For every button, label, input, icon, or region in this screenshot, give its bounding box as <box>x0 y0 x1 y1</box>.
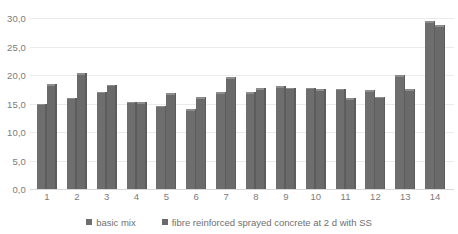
bar-group <box>241 18 271 189</box>
legend-label: fibre reinforced sprayed concrete at 2 d… <box>172 217 372 228</box>
bar <box>97 92 107 189</box>
legend-item[interactable]: basic mix <box>86 217 136 228</box>
y-axis-tick: 15,0 <box>7 98 26 109</box>
bar-group <box>390 18 420 189</box>
bar-chart: 0,05,010,015,020,025,030,0 1234567891011… <box>0 0 458 234</box>
bar-group <box>211 18 241 189</box>
bar-group <box>151 18 181 189</box>
bar <box>435 25 445 189</box>
x-axis-tick: 10 <box>301 191 331 207</box>
bar-group <box>301 18 331 189</box>
y-axis-tick: 5,0 <box>12 155 26 166</box>
x-axis-tick: 3 <box>92 191 122 207</box>
bar <box>316 89 326 189</box>
bar <box>405 89 415 189</box>
bar <box>306 88 316 189</box>
bar-group <box>181 18 211 189</box>
y-axis-labels: 0,05,010,015,020,025,030,0 <box>0 18 28 189</box>
x-axis-tick: 9 <box>271 191 301 207</box>
bar-group <box>420 18 450 189</box>
bar-group <box>122 18 152 189</box>
x-axis-tick: 2 <box>62 191 92 207</box>
bar <box>127 102 137 189</box>
y-axis-tick: 0,0 <box>12 184 26 195</box>
bar <box>226 77 236 189</box>
bar <box>196 97 206 189</box>
x-axis-tick: 1 <box>32 191 62 207</box>
x-axis-tick: 8 <box>241 191 271 207</box>
y-axis-tick: 10,0 <box>7 127 26 138</box>
bar <box>375 97 385 189</box>
bar <box>216 92 226 189</box>
bar <box>166 93 176 189</box>
x-axis-tick: 13 <box>390 191 420 207</box>
x-axis-tick: 7 <box>211 191 241 207</box>
bar <box>77 73 87 189</box>
y-axis-tick: 25,0 <box>7 41 26 52</box>
bar <box>156 106 166 189</box>
bar-group <box>62 18 92 189</box>
bar-group <box>32 18 62 189</box>
y-axis-tick: 30,0 <box>7 13 26 24</box>
y-axis-tick: 20,0 <box>7 70 26 81</box>
bar <box>37 104 47 190</box>
chart-legend: basic mixfibre reinforced sprayed concre… <box>0 213 458 231</box>
plot-area <box>30 18 454 189</box>
legend-item[interactable]: fibre reinforced sprayed concrete at 2 d… <box>162 217 372 228</box>
bar <box>276 86 286 189</box>
legend-swatch-icon <box>162 219 168 225</box>
bar <box>336 89 346 189</box>
bar <box>246 92 256 189</box>
x-axis-labels: 1234567891011121314 <box>30 191 454 207</box>
gridline <box>30 189 454 190</box>
x-axis-tick: 4 <box>122 191 152 207</box>
bar-group <box>92 18 122 189</box>
bar <box>186 109 196 189</box>
bar <box>346 98 356 189</box>
x-axis-tick: 11 <box>331 191 361 207</box>
legend-label: basic mix <box>96 217 136 228</box>
bar-group <box>331 18 361 189</box>
bar <box>47 84 57 189</box>
bar <box>286 88 296 189</box>
bar <box>365 90 375 189</box>
legend-swatch-icon <box>86 219 92 225</box>
bar <box>137 102 147 189</box>
x-axis-tick: 5 <box>151 191 181 207</box>
bar-group <box>271 18 301 189</box>
bar <box>256 88 266 189</box>
bar <box>425 21 435 189</box>
x-axis-tick: 14 <box>420 191 450 207</box>
x-axis-tick: 6 <box>181 191 211 207</box>
bar <box>107 85 117 189</box>
bar-group <box>360 18 390 189</box>
bar-groups <box>30 18 454 189</box>
bar <box>395 75 405 189</box>
x-axis-tick: 12 <box>360 191 390 207</box>
bar <box>67 98 77 189</box>
